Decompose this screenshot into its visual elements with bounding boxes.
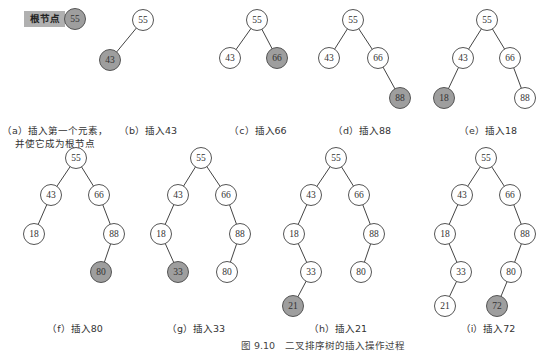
tree-node: 66 — [88, 184, 110, 206]
caption-line: （g）插入33 — [167, 322, 225, 335]
caption-e: （e）插入18 — [459, 124, 517, 137]
caption-line: （b）插入43 — [119, 124, 177, 137]
tree-node: 66 — [215, 184, 237, 206]
caption-line: （f）插入80 — [47, 322, 102, 335]
inserted-node: 80 — [90, 261, 112, 283]
caption-line: （h）插入21 — [309, 322, 367, 335]
tree-node: 43 — [300, 184, 322, 206]
caption-line: （a）插入第一个元素， — [2, 124, 108, 137]
inserted-node: 43 — [99, 49, 121, 71]
caption-b: （b）插入43 — [119, 124, 177, 137]
caption-line: （e）插入18 — [459, 124, 517, 137]
caption-line: （d）插入88 — [333, 124, 391, 137]
tree-node: 55 — [132, 9, 154, 31]
tree-node: 43 — [219, 47, 241, 69]
tree-node: 88 — [229, 223, 251, 245]
caption-d: （d）插入88 — [333, 124, 391, 137]
inserted-node: 66 — [266, 47, 288, 69]
tree-node: 43 — [451, 184, 473, 206]
tree-node: 66 — [367, 47, 389, 69]
inserted-node: 33 — [167, 261, 189, 283]
tree-node: 88 — [514, 87, 536, 109]
tree-node: 66 — [499, 47, 521, 69]
tree-node: 55 — [475, 147, 497, 169]
tree-node: 18 — [150, 223, 172, 245]
tree-node: 80 — [500, 261, 522, 283]
figure-title: 图 9.10 二叉排序树的插入操作过程 — [241, 338, 405, 352]
tree-node: 88 — [514, 223, 536, 245]
root-legend-node: 55 — [64, 8, 86, 30]
tree-node: 80 — [216, 261, 238, 283]
tree-node: 80 — [350, 261, 372, 283]
caption-line: （i）插入72 — [461, 322, 516, 335]
caption-c: （c）插入66 — [229, 124, 286, 137]
inserted-node: 21 — [282, 295, 304, 317]
caption-a: （a）插入第一个元素，并使它成为根节点 — [2, 124, 108, 150]
tree-node: 55 — [476, 9, 498, 31]
inserted-node: 88 — [389, 87, 411, 109]
tree-node: 66 — [348, 184, 370, 206]
tree-node: 88 — [363, 223, 385, 245]
tree-node: 55 — [246, 9, 268, 31]
caption-i: （i）插入72 — [461, 322, 516, 335]
caption-f: （f）插入80 — [47, 322, 102, 335]
caption-line: （c）插入66 — [229, 124, 286, 137]
tree-node: 66 — [499, 184, 521, 206]
caption-h: （h）插入21 — [309, 322, 367, 335]
tree-node: 18 — [23, 223, 45, 245]
tree-node: 55 — [342, 9, 364, 31]
tree-node: 43 — [452, 47, 474, 69]
tree-node: 55 — [190, 147, 212, 169]
tree-node: 18 — [434, 223, 456, 245]
tree-node: 88 — [103, 223, 125, 245]
tree-node: 43 — [167, 184, 189, 206]
tree-node: 43 — [318, 47, 340, 69]
tree-node: 55 — [65, 147, 87, 169]
tree-node: 21 — [434, 295, 456, 317]
caption-line: 并使它成为根节点 — [2, 137, 108, 150]
root-legend-label: 根节点 — [24, 11, 65, 27]
inserted-node: 18 — [433, 87, 455, 109]
tree-node: 33 — [450, 261, 472, 283]
tree-node: 55 — [325, 147, 347, 169]
tree-node: 18 — [283, 223, 305, 245]
tree-node: 33 — [300, 261, 322, 283]
inserted-node: 72 — [486, 295, 508, 317]
tree-node: 43 — [40, 184, 62, 206]
bst-insertion-figure: 根节点 55 554355436655436688554366188855436… — [0, 0, 550, 355]
caption-g: （g）插入33 — [167, 322, 225, 335]
